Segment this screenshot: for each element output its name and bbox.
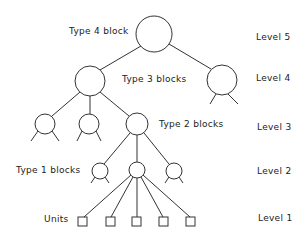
type3-block-node [75,66,105,96]
type4-label: Type 4 block [69,26,129,36]
unit-node [132,217,141,226]
type3-label: Type 3 blocks [122,74,187,84]
level-3-label: Level 3 [257,122,291,132]
level-2-label: Level 2 [257,166,291,176]
type2-label: Type 2 blocks [159,119,224,129]
type1-block-node [129,162,145,178]
level-4-label: Level 4 [256,73,290,83]
type4-block-node [136,16,172,52]
level-5-label: Level 5 [256,32,290,42]
unit-node [106,217,115,226]
unit-node [186,217,195,226]
level-1-label: Level 1 [258,213,292,223]
type1-block-node [166,163,182,179]
unit-node [78,217,87,226]
units-label: Units [44,214,69,224]
type2-block-node [126,113,148,135]
type1-block-node [92,163,108,179]
type1-label: Type 1 blocks [16,165,81,175]
unit-node [159,217,168,226]
type3-block-node [207,65,237,95]
